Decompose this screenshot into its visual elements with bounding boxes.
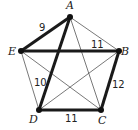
vertex-c [98,107,104,113]
edge-weight-b-c: 12 [112,79,125,90]
vertex-label-c: C [98,114,107,127]
edge-e-c [21,51,101,110]
vertex-label-a: A [65,0,74,12]
vertex-label-e: E [7,45,16,58]
edge-d-b [39,51,119,110]
vertex-e [18,48,24,54]
vertices-group [18,14,122,113]
graph-diagram: 911101112 ABCDE [0,0,138,130]
edge-weight-e-b: 11 [91,39,104,50]
edge-a-c [70,17,101,110]
vertex-label-d: D [28,113,38,126]
edge-weight-d-c: 11 [65,113,78,124]
edge-a-e [21,17,70,51]
edge-weight-a-d: 10 [34,77,47,88]
edges-group [21,17,119,110]
edge-weight-a-e: 9 [39,22,45,33]
vertex-label-b: B [120,45,129,58]
vertex-a [67,14,73,20]
